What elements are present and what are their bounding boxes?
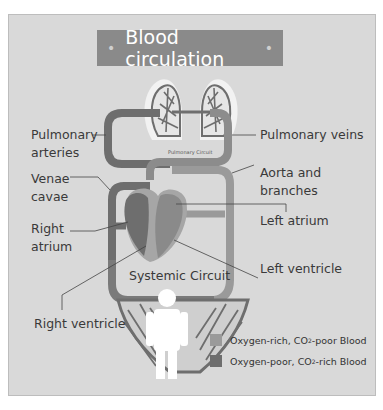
label-line: Pulmonary	[31, 126, 98, 144]
pulmonary-circuit-label: Pulmonary Circuit	[168, 149, 212, 155]
label-line: Aorta and	[260, 164, 321, 182]
label-line: arteries	[31, 144, 98, 162]
label-right-atrium: Right atrium	[31, 220, 72, 256]
label-aorta: Aorta and branches	[260, 164, 321, 200]
label-venae-cavae: Venae cavae	[31, 170, 70, 206]
label-line: cavae	[31, 188, 70, 206]
legend-text: -rich Blood	[316, 356, 367, 367]
label-line: atrium	[31, 238, 72, 256]
legend-text: -poor Blood	[312, 335, 367, 346]
label-left-ventricle: Left ventricle	[260, 260, 342, 278]
label-line: branches	[260, 182, 321, 200]
label-pulmonary-arteries: Pulmonary arteries	[31, 126, 98, 162]
label-left-atrium: Left atrium	[260, 212, 329, 230]
label-line: Right	[31, 220, 72, 238]
label-right-ventricle: Right ventricle	[34, 315, 125, 333]
legend-text: Oxygen-rich, CO	[230, 335, 308, 346]
systemic-circuit-label: Systemic Circuit	[129, 268, 230, 283]
label-line: Venae	[31, 170, 70, 188]
legend-swatch	[210, 334, 222, 346]
legend-oxygen-rich: Oxygen-rich, CO2-poor Blood	[210, 334, 367, 346]
legend-text: Oxygen-poor, CO	[230, 356, 312, 367]
label-pulmonary-veins: Pulmonary veins	[260, 126, 364, 144]
heart-icon	[124, 189, 187, 262]
legend-swatch	[210, 355, 222, 367]
legend-oxygen-poor: Oxygen-poor, CO2-rich Blood	[210, 355, 367, 367]
